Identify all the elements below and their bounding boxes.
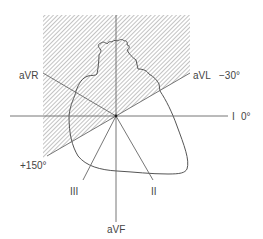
label-avl-angle: −30° <box>219 70 240 81</box>
label-avf: aVF <box>107 224 125 235</box>
lead-ii-axis <box>116 116 153 180</box>
label-lead-ii: II <box>151 186 157 197</box>
hexaxial-diagram: aVR aVL −30° I 0° +150° III II aVF <box>0 0 263 239</box>
label-avr: aVR <box>19 70 38 81</box>
label-lead-i: I <box>232 111 235 122</box>
label-lead-iii: III <box>70 186 78 197</box>
label-plus150: +150° <box>20 160 47 171</box>
label-lead-i-angle: 0° <box>241 111 251 122</box>
center-point <box>115 115 118 118</box>
label-avl: aVL <box>193 70 211 81</box>
